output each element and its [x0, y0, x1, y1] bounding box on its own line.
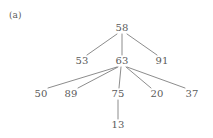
- tree-edge: [127, 34, 157, 55]
- tree-node: 53: [75, 56, 88, 66]
- tree-edge: [127, 67, 185, 88]
- tree-edge: [119, 67, 121, 88]
- tree-edge: [87, 34, 117, 55]
- tree-edge: [48, 67, 117, 88]
- tree-edge: [126, 67, 151, 88]
- tree-node: 89: [64, 89, 77, 99]
- tree-node: 58: [115, 23, 128, 33]
- tree-diagram-figure: (a) 58536391508975203713: [0, 0, 213, 138]
- panel-label: (a): [9, 11, 21, 20]
- tree-edge-layer: [0, 0, 213, 138]
- tree-node: 37: [185, 89, 198, 99]
- tree-node: 50: [34, 89, 47, 99]
- tree-edge: [78, 67, 118, 88]
- tree-node: 13: [111, 120, 124, 130]
- tree-node: 75: [111, 89, 124, 99]
- tree-node: 91: [155, 56, 168, 66]
- tree-node: 63: [115, 56, 128, 66]
- tree-node: 20: [150, 89, 163, 99]
